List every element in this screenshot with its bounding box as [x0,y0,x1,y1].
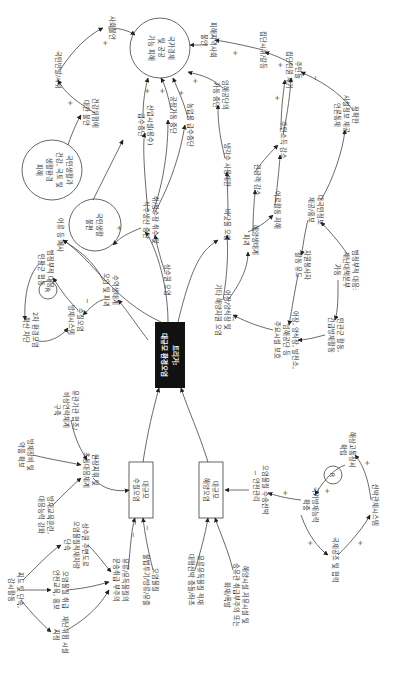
equipment-node: 방제장비 및 약품 확보 [17,439,35,471]
marine-eco-node: 해양생태계 파괴 [242,225,260,255]
fisheries-pollution-node: 어장/양식장 및 기타 해양자원 오염 [214,284,232,336]
svg-text:산업시설(용수): 산업시설(용수) [146,105,155,146]
svg-text:긴급방제활동: 긴급방제활동 [327,317,336,353]
svg-text:방제시스템: 방제시스템 [67,305,76,335]
svg-text:트리거:: 트리거: [171,345,180,366]
svg-text:범정부적 대응:: 범정부적 대응: [351,250,360,290]
svg-text:불안: 불안 [200,34,209,46]
svg-text:비상연락체계: 비상연락체계 [62,392,71,428]
protect-facilities-node: 어장, 양식장, 발전소, 임해공단 등 주요시설 보호 [273,311,300,369]
svg-text:제공/홍보: 제공/홍보 [307,197,316,223]
life-inconvenience-node: 국민생활 불편 [69,199,121,251]
svg-text:임해공단 등: 임해공단 등 [282,324,291,356]
svg-text:기타 해양자원 오염: 기타 해양자원 오염 [214,284,223,336]
svg-text:오염물질 수송선박: 오염물질 수송선박 [261,465,270,515]
plant-stop-node: 임해공단의 가동 중단 [212,80,230,110]
svg-text:안전교육, 홍보: 안전교육, 홍보 [52,570,61,610]
svg-text:−: − [251,470,259,476]
svg-text:+: + [231,50,239,56]
leak-node: 유류/유독물질의 운송취급 부주의 [112,558,130,602]
illegal-dumping-node: 오염물질 불법투기/방류/유출 [142,554,159,606]
gov-response-water-node: 범정부적 대응: 민관군 협동 [37,250,55,290]
svg-text:R: R [43,288,51,293]
marine-facility-node: 해양시설 저유시설 및 송유관 취급부주의 또는 화재/폭발 [223,563,250,627]
svg-text:+: + [281,490,289,496]
svg-text:기능 피해: 기능 피해 [147,35,156,61]
svg-text:국민생활과: 국민생활과 [65,155,74,185]
svg-text:건강위험에: 건강위험에 [91,98,100,128]
svg-text:오염물질: 오염물질 [151,568,159,592]
svg-text:오염물질적재차량: 오염물질적재차량 [72,521,81,569]
svg-text:상수원 주변도로: 상수원 주변도로 [81,523,90,567]
svg-text:수질오염: 수질오염 [76,308,84,332]
svg-text:대한 불안: 대한 불안 [82,100,91,126]
svg-text:대규모: 대규모 [141,481,149,499]
public-info-node: 대국민정보 제공/홍보 [307,195,325,225]
hazmat-transport-node: 오염물질 취급 안전교육, 홍보 [52,570,69,610]
svg-text:−: − [91,455,99,461]
svg-text:언론통제: 언론통제 [333,103,341,127]
seawater-pollution-node: 바닷물 오염 [223,209,232,241]
svg-text:−: − [83,298,91,304]
svg-text:+: + [276,62,284,68]
resident-group-node: 주민들 집단민원 제기 [285,51,303,89]
svg-text:+: + [66,100,74,106]
svg-text:운송취급 부주의: 운송취급 부주의 [112,558,121,602]
svg-text:안전관리: 안전관리 [252,478,261,502]
svg-text:확산 차단: 확산 차단 [22,317,31,343]
svg-text:해양오염: 해양오염 [202,478,211,502]
national-capacity-node: 국가방제능력 확충 [302,487,320,523]
svg-text:해양시설 저유시설 및: 해양시설 저유시설 및 [241,566,250,624]
svg-text:대규모: 대규모 [211,481,219,499]
water-warning-node: 수질오염 방제시스템 [67,305,84,335]
svg-text:방재교육훈련,: 방재교육훈련, [46,496,55,534]
health-anxiety-node: 건강위험에 대한 불안 [82,98,100,128]
svg-text:국민반발/시위: 국민반발/시위 [54,51,63,89]
svg-text:+: + [273,95,281,101]
water-supply-stop-node: 취/정수장 취수 및 식수생산 중단 [142,196,160,244]
public-complaints-node: 국민반발/시위 [54,51,63,89]
svg-text:대형선박 충돌/좌초: 대형선박 충돌/좌초 [187,554,196,606]
svg-text:활동 유도: 활동 유도 [294,252,303,278]
guidance-node: 지도 및 단속, 감시활동 [7,572,25,608]
marine-pollution-box: 대규모 해양오염 [199,462,223,518]
svg-text:해상고통장서: 해상고통장서 [348,432,357,468]
svg-text:재난위험 시설: 재난위험 시설 [61,616,70,654]
resident-income-node: 주민소득 감소 [279,121,288,159]
svg-text:+: + [177,90,185,96]
svg-text:국민생활: 국민생활 [95,213,104,237]
svg-text:파괴: 파괴 [242,234,251,246]
trigger-box: 트리거: 대규모 환경오염 [155,322,185,388]
svg-text:주요시설 보호: 주요시설 보호 [273,321,281,359]
civil-activity-node: 민관군 활동, 긴급방제활동 [327,317,345,353]
svg-text:+: + [306,540,314,546]
svg-text:집단시위/갈등: 집단시위/갈등 [259,31,268,69]
svg-text:국가방제능력: 국가방제능력 [311,487,320,523]
svg-text:주민들: 주민들 [294,61,303,79]
svg-text:공장가동 중단: 공장가동 중단 [169,96,178,134]
training-node: 방재교육훈련, 대응능력 강화 [37,496,55,534]
industrial-water-node: 산업시설(용수) 급수중단 [137,105,155,146]
svg-text:사실정보 제공,: 사실정보 제공, [342,95,351,135]
svg-text:+: + [158,88,166,94]
svg-text:+: + [323,488,331,494]
svg-text:단속: 단속 [63,539,72,551]
svg-text:감시활동: 감시활동 [7,578,16,602]
svg-text:초동대응체계: 초동대응체계 [82,452,91,488]
vessel-system-node: 선박관제시스템 [371,484,380,526]
svg-text:집단민원 제기: 집단민원 제기 [285,51,294,89]
svg-text:주민소득 감소: 주민소득 감소 [279,121,288,159]
svg-text:+: + [363,460,371,466]
svg-text:송유관 취급부주의 또는: 송유관 취급부주의 또는 [232,563,241,627]
oil-spill-node: 유류유독물질 적재 대형선박 충돌/좌초 [187,554,204,606]
svg-text:민관군 활동,: 민관군 활동, [336,318,345,352]
svg-text:피해: 피해 [35,164,44,176]
fishing-stop-node: 어로활동 저해 [273,191,282,229]
svg-text:바닷물 오염: 바닷물 오염 [223,209,232,241]
svg-text:건강, 국토 및: 건강, 국토 및 [55,152,64,188]
svg-text:수질오염: 수질오염 [132,478,140,502]
water-pollution-box: 대규모 수질오염 [129,462,153,518]
svg-text:가동: 가동 [333,264,342,276]
svg-text:+: + [356,540,364,546]
svg-text:불편: 불편 [85,219,94,231]
